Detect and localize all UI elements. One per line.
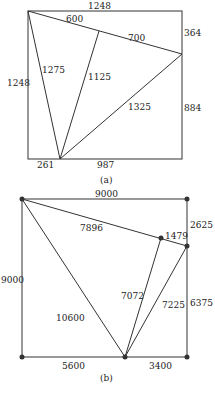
label-a-1275: 1275 <box>42 65 65 75</box>
label-a-700: 700 <box>128 33 145 43</box>
caption-b: (b) <box>100 373 113 383</box>
figure-a <box>28 11 182 159</box>
vertices-b <box>20 197 190 360</box>
edge-1125 <box>60 31 99 159</box>
vertex-dot <box>185 197 190 202</box>
label-a-left: 1248 <box>7 78 30 88</box>
label-a-1125: 1125 <box>88 72 111 82</box>
label-b-top: 9000 <box>95 189 118 199</box>
vertex-dot <box>185 244 190 249</box>
square-a <box>28 11 182 159</box>
label-a-bottom-right: 987 <box>97 160 114 170</box>
label-a-1325: 1325 <box>128 102 151 112</box>
diagram-canvas: 1248 1248 364 884 261 987 600 700 1275 1… <box>0 0 215 394</box>
vertex-dot <box>159 236 164 241</box>
label-b-7072: 7072 <box>121 291 144 301</box>
figure-b <box>22 199 187 357</box>
label-b-7896: 7896 <box>80 223 103 233</box>
label-b-1479: 1479 <box>165 231 188 241</box>
label-a-600: 600 <box>66 14 83 24</box>
vertex-dot <box>123 355 128 360</box>
edge-10600 <box>22 199 125 357</box>
label-b-left: 9000 <box>1 275 24 285</box>
caption-a: (a) <box>100 175 112 185</box>
label-b-bottom-right: 3400 <box>149 361 172 371</box>
vertex-dot <box>20 355 25 360</box>
edge-1275 <box>28 11 60 159</box>
vertex-dot <box>185 355 190 360</box>
edge-1325 <box>60 54 182 159</box>
edge-top-diagonal-a <box>28 11 182 54</box>
label-b-right-upper: 2625 <box>190 220 213 230</box>
label-a-right-upper: 364 <box>184 28 201 38</box>
label-b-right-lower: 6375 <box>190 298 213 308</box>
label-a-bottom-left: 261 <box>37 160 54 170</box>
label-a-top: 1248 <box>88 1 111 11</box>
label-b-7225: 7225 <box>162 300 185 310</box>
label-b-10600: 10600 <box>56 313 85 323</box>
label-a-right-lower: 884 <box>184 103 201 113</box>
label-b-bottom-left: 5600 <box>62 361 85 371</box>
vertex-dot <box>20 197 25 202</box>
